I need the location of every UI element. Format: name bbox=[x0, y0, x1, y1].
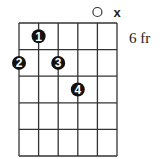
open-string-icon bbox=[93, 8, 102, 17]
finger-number: 1 bbox=[35, 30, 42, 44]
chord-diagram: x1234 bbox=[0, 0, 160, 159]
muted-string-icon: x bbox=[113, 5, 121, 20]
finger-number: 3 bbox=[55, 56, 62, 70]
finger-number: 4 bbox=[74, 83, 81, 97]
fret-position-label: 6 fr bbox=[129, 30, 150, 47]
finger-number: 2 bbox=[16, 56, 23, 70]
